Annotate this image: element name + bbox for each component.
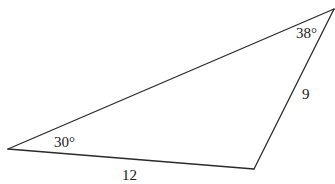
side-bottom <box>8 149 254 169</box>
side-label-bottom: 12 <box>122 167 137 183</box>
side-label-right: 9 <box>302 86 310 102</box>
angle-label-left: 30° <box>54 134 75 150</box>
side-right <box>254 9 334 169</box>
angle-label-top-right: 38° <box>296 25 317 41</box>
triangle-diagram: 30° 38° 12 9 <box>0 0 335 184</box>
side-hypotenuse <box>8 9 334 149</box>
